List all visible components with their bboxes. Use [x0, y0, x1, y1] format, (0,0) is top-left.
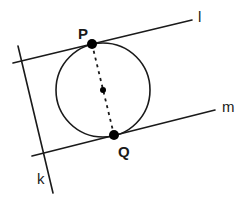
label-q: Q	[118, 143, 130, 160]
line-l	[13, 20, 192, 63]
label-p: P	[78, 25, 88, 42]
label-m: m	[222, 98, 235, 115]
label-l: l	[198, 8, 201, 25]
center-point	[100, 87, 106, 93]
point-p	[87, 39, 97, 49]
line-k	[18, 46, 53, 193]
geometry-diagram: P Q l m k	[0, 0, 246, 209]
label-k: k	[37, 170, 45, 187]
point-q	[109, 130, 119, 140]
